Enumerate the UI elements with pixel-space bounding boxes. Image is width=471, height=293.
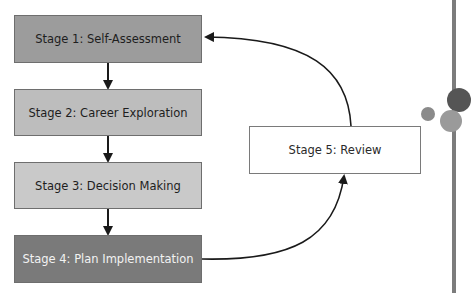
arrow-s4-s5 [202,176,344,259]
stage-5-review: Stage 5: Review [249,126,421,174]
stage-2-career-exploration: Stage 2: Career Exploration [14,89,202,136]
stage-label: Stage 5: Review [289,143,382,157]
stage-1-self-assessment: Stage 1: Self-Assessment [14,15,202,63]
stage-label: Stage 3: Decision Making [35,179,181,193]
stage-label: Stage 1: Self-Assessment [35,32,181,46]
stage-label: Stage 4: Plan Implementation [22,252,193,266]
stage-label: Stage 2: Career Exploration [28,106,187,120]
stage-4-plan-implementation: Stage 4: Plan Implementation [14,235,202,283]
stage-3-decision-making: Stage 3: Decision Making [14,162,202,209]
arrow-s5-s1 [206,37,351,126]
